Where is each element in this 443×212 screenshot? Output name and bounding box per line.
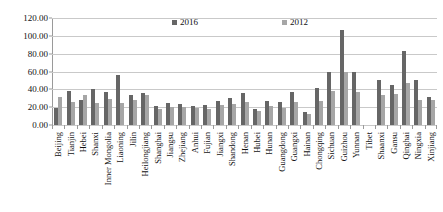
bar-2012: [95, 103, 99, 125]
x-tick-label: Guangdong: [277, 132, 287, 210]
x-label-cell: Beijing: [52, 130, 64, 210]
x-label-cell: Yunnan: [350, 130, 362, 210]
bar-2012: [418, 100, 422, 125]
x-axis-ticks: [52, 125, 437, 129]
x-tick-label: Ningxia: [413, 132, 423, 210]
bar-group: [189, 18, 201, 125]
bar-group: [338, 18, 350, 125]
x-tick-mark: [164, 125, 176, 129]
x-tick-label: Hainan: [302, 132, 312, 210]
bar-2012: [319, 101, 323, 125]
x-tick-mark: [102, 125, 114, 129]
x-tick-label: Gansu: [389, 132, 399, 210]
x-tick-label: Shandong: [227, 132, 237, 210]
bar-2012: [344, 72, 348, 126]
x-tick-label: Liaoning: [115, 132, 125, 210]
y-tick-label: 80.00: [28, 49, 48, 58]
x-label-cell: Sichuan: [325, 130, 337, 210]
x-tick-mark: [176, 125, 188, 129]
bar-group: [288, 18, 300, 125]
x-label-cell: Heilongjiang: [139, 130, 151, 210]
legend-label-2016: 2016: [180, 18, 198, 27]
x-tick-label: Beijing: [53, 132, 63, 210]
x-tick-mark: [251, 125, 263, 129]
x-label-cell: Jilin: [127, 130, 139, 210]
x-label-cell: Hubei: [251, 130, 263, 210]
x-axis-labels: BeijingTianjinHebeiShanxiInner MongoliaL…: [52, 130, 437, 210]
x-tick-label: Zhejiang: [177, 132, 187, 210]
bar-group: [213, 18, 225, 125]
x-tick-mark: [201, 125, 213, 129]
bar-group: [412, 18, 424, 125]
bar-group: [64, 18, 76, 125]
x-tick-mark: [64, 125, 76, 129]
bar-2012: [58, 97, 62, 125]
bar-2012: [108, 99, 112, 125]
x-tick-mark: [189, 125, 201, 129]
x-tick-mark: [313, 125, 325, 129]
bar-2012: [182, 107, 186, 125]
x-tick-label: Xinjiang: [426, 132, 436, 210]
bar-group: [151, 18, 163, 125]
x-tick-mark: [238, 125, 250, 129]
x-tick-label: Yunnan: [351, 132, 361, 210]
legend-label-2012: 2012: [290, 18, 308, 27]
x-tick-mark: [213, 125, 225, 129]
legend-item-2016: 2016: [172, 18, 198, 27]
x-tick-label: Jiangxi: [215, 132, 225, 210]
bar-group: [238, 18, 250, 125]
x-tick-label: Anhui: [190, 132, 200, 210]
bar-2012: [282, 108, 286, 125]
x-tick-mark: [127, 125, 139, 129]
legend-swatch-2016: [172, 20, 177, 25]
bar-2012: [394, 94, 398, 125]
x-tick-mark: [325, 125, 337, 129]
bar-2012: [381, 95, 385, 125]
x-label-cell: Tianjin: [64, 130, 76, 210]
x-tick-mark: [89, 125, 101, 129]
bar-2012: [220, 105, 224, 126]
bar-groups: [52, 18, 437, 125]
x-tick-label: Sichuan: [326, 132, 336, 210]
plot-area: 0.0020.0040.0060.0080.00100.00120.00: [52, 18, 437, 125]
x-label-cell: Shaanxi: [375, 130, 387, 210]
x-tick-label: Hubei: [252, 132, 262, 210]
x-tick-mark: [276, 125, 288, 129]
bar-2012: [257, 111, 261, 125]
bar-2012: [406, 83, 410, 125]
y-tick-label: 20.00: [28, 103, 48, 112]
bar-group: [387, 18, 399, 125]
x-tick-label: Heilongjiang: [140, 132, 150, 210]
bar-2012: [195, 108, 199, 125]
y-tick-label: 0.00: [32, 121, 48, 130]
bar-group: [325, 18, 337, 125]
y-tick-label: 40.00: [28, 85, 48, 94]
x-label-cell: Zhejiang: [176, 130, 188, 210]
bar-group: [375, 18, 387, 125]
bar-group: [77, 18, 89, 125]
x-label-cell: Gansu: [387, 130, 399, 210]
bar-2012: [245, 102, 249, 125]
bar-group: [251, 18, 263, 125]
x-tick-mark: [350, 125, 362, 129]
x-tick-label: Chongqing: [314, 132, 324, 210]
bar-group: [127, 18, 139, 125]
x-tick-label: Jilin: [128, 132, 138, 210]
x-label-cell: Hunan: [263, 130, 275, 210]
x-tick-mark: [77, 125, 89, 129]
bar-2012: [120, 103, 124, 125]
x-tick-label: Guizhou: [339, 132, 349, 210]
bar-group: [114, 18, 126, 125]
x-tick-mark: [52, 125, 64, 129]
bar-group: [139, 18, 151, 125]
x-tick-mark: [400, 125, 412, 129]
bar-group: [276, 18, 288, 125]
bar-group: [363, 18, 375, 125]
bar-group: [164, 18, 176, 125]
bar-2012: [71, 102, 75, 125]
x-tick-mark: [139, 125, 151, 129]
x-tick-mark: [363, 125, 375, 129]
x-tick-label: Henan: [240, 132, 250, 210]
x-tick-label: Qinghai: [401, 132, 411, 210]
x-tick-mark: [151, 125, 163, 129]
